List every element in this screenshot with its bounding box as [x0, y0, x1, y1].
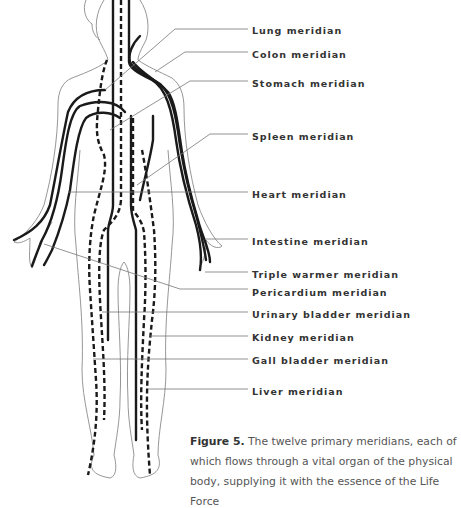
meridian-label: Lung meridian [252, 25, 342, 37]
meridian-label: Stomach meridian [252, 78, 365, 90]
figure-number: Figure 5. [190, 435, 245, 448]
meridian-label: Liver meridian [252, 386, 343, 398]
meridian-label: Spleen meridian [252, 131, 354, 143]
meridian-label: Intestine meridian [252, 236, 369, 248]
solid-meridians [14, 0, 210, 440]
meridian-label: Gall bladder meridian [252, 355, 389, 367]
meridian-label: Urinary bladder meridian [252, 309, 411, 321]
figure-caption: Figure 5. The twelve primary meridians, … [190, 432, 460, 508]
meridian-label: Heart meridian [252, 189, 347, 201]
meridian-label: Triple warmer meridian [252, 269, 399, 281]
dashed-meridians [88, 0, 155, 475]
meridian-label: Kidney meridian [252, 332, 355, 344]
meridian-label: Colon meridian [252, 49, 347, 61]
meridian-label: Pericardium meridian [252, 287, 388, 299]
body-outline [14, 0, 222, 478]
